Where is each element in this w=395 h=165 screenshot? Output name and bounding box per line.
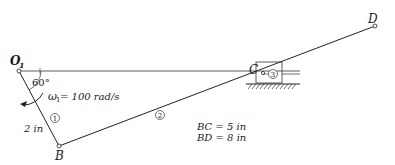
angle-label: 60° [32, 77, 50, 88]
diagram-svg: 1 2 3 O 1 B C D 60° ω 1 = 100 rad/s 2 in… [0, 0, 395, 165]
label-C: C [249, 63, 258, 77]
mechanism-diagram: 1 2 3 O 1 B C D 60° ω 1 = 100 rad/s 2 in… [0, 0, 395, 165]
link-1-length: 2 in [23, 123, 43, 134]
bd-length: BD = 8 in [196, 132, 246, 143]
link-1-number: 1 [53, 115, 57, 123]
label-D: D [367, 12, 378, 26]
link-2-number: 2 [158, 112, 162, 120]
link-3-number: 3 [271, 71, 275, 79]
label-B: B [54, 149, 64, 163]
omega-arrowhead-icon [20, 101, 27, 107]
label-O-sub: 1 [19, 60, 25, 70]
bc-length: BC = 5 in [196, 121, 246, 132]
ground-hatch [248, 84, 296, 89]
joint-B [57, 144, 61, 148]
omega-value: = 100 rad/s [60, 91, 119, 102]
